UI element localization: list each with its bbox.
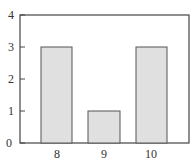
x-tick-label: 9 [101,147,107,161]
y-axis: 0 1 2 3 4 [6,8,25,150]
y-tick-label: 0 [6,136,12,150]
y-tick-label: 3 [8,40,14,54]
bar-chart: 0 1 2 3 4 8 9 10 [0,0,195,163]
x-axis: 8 9 10 [54,147,157,161]
y-tick-label: 4 [8,8,14,22]
bar-9 [88,111,120,143]
bars [41,47,167,143]
x-tick-label: 8 [54,147,60,161]
x-tick-label: 10 [145,147,157,161]
y-tick-label: 2 [8,72,14,86]
bar-8 [41,47,72,143]
y-tick-label: 1 [8,104,14,118]
bar-10 [136,47,167,143]
